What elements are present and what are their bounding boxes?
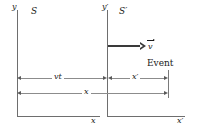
dimension-x-prime-right-arrowhead bbox=[164, 76, 168, 80]
x-axis-line bbox=[17, 116, 100, 117]
dimension-x-line bbox=[19, 93, 166, 94]
x-prime-axis-label: x′ bbox=[177, 117, 183, 125]
velocity-arrowhead-inner bbox=[140, 44, 143, 48]
dimension-vt-label: vt bbox=[52, 73, 64, 81]
dimension-vt-right-arrowhead bbox=[103, 76, 107, 80]
frame-s-label: S bbox=[31, 7, 37, 16]
dimension-x-prime-label: x′ bbox=[130, 73, 140, 81]
y-axis-line bbox=[17, 10, 18, 117]
x-axis-label: x bbox=[91, 117, 96, 125]
x-prime-axis-line bbox=[107, 116, 185, 117]
dimension-x-left-arrowhead bbox=[17, 91, 21, 95]
y-prime-axis-label: y′ bbox=[102, 3, 108, 11]
dimension-x-prime-left-arrowhead bbox=[108, 76, 112, 80]
relativity-frames-diagram: y S x y′ S′ x′ v Event vt x′ x bbox=[0, 0, 200, 130]
frame-s-prime-label: S′ bbox=[119, 7, 127, 16]
velocity-label: v bbox=[148, 42, 153, 51]
dimension-vt-left-arrowhead bbox=[17, 76, 21, 80]
dimension-x-right-arrowhead bbox=[164, 91, 168, 95]
velocity-vector-overbar-tip bbox=[153, 39, 155, 41]
y-axis-label: y bbox=[12, 3, 17, 11]
event-label: Event bbox=[147, 59, 173, 68]
y-prime-axis-line bbox=[107, 10, 108, 117]
event-marker-line bbox=[168, 70, 169, 98]
velocity-arrow-shaft bbox=[108, 45, 141, 47]
dimension-x-label: x bbox=[82, 88, 91, 96]
